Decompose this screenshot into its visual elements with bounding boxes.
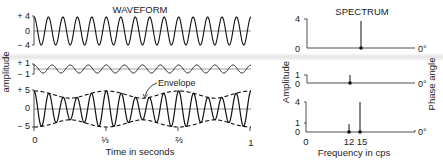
envelope-label: Envelope	[158, 78, 196, 88]
envelope-lower	[34, 120, 251, 127]
s3-y-axis	[304, 102, 306, 132]
freq-tick-0: 0	[303, 136, 308, 147]
s1-phase-dot	[359, 46, 363, 50]
waveform-panel-15cps: + 4 0 − 4	[17, 11, 251, 50]
envelope-upper	[34, 91, 251, 98]
w2-tick-minus1: − 1	[17, 69, 30, 79]
waveform-y-axis-title: amplitude	[0, 51, 11, 92]
s1-y-axis	[304, 19, 307, 48]
s3-tick-0: 0	[295, 127, 300, 137]
s2-tick-0: 0	[295, 79, 300, 89]
w2-tick-plus1: + 1	[17, 58, 30, 68]
waveform-panel-sum: + 5 0 − 5 Envelope	[17, 78, 251, 131]
spectrum-panel-2: 1 0 0°	[295, 70, 427, 89]
freq-tick-12: 12	[344, 136, 355, 147]
s3-phase-dot-15	[358, 130, 362, 134]
envelope-arrow	[145, 83, 157, 96]
s3-tick-4: 4	[295, 97, 300, 107]
spectrum-amplitude-title: Amplitude	[280, 61, 291, 103]
s1-phase-label: 0°	[418, 44, 427, 54]
frequency-axis-title: Frequency in cps	[318, 147, 391, 158]
time-label-1-3: ⅓	[101, 135, 109, 145]
waveform-panel-12cps: + 1 − 1	[17, 58, 251, 79]
w1-tick-0: 0	[25, 26, 30, 36]
w2-y-axis	[32, 64, 34, 74]
time-label-1: 1	[248, 137, 253, 148]
waveform-spectrum-figure: WAVEFORM + 4 0 − 4 + 1 − 1 + 5 0 − 5 Env…	[0, 0, 443, 162]
w1-y-axis	[32, 16, 34, 45]
s1-tick-4: 4	[295, 14, 300, 24]
s1-tick-0: 0	[295, 44, 300, 54]
freq-tick-15: 15	[357, 136, 368, 147]
w3-y-axis	[32, 90, 34, 127]
w3-tick-minus5: − 5	[17, 121, 30, 131]
s3-phase-label: 0°	[418, 127, 427, 137]
spectrum-panel-3: 4 1 0 0°	[295, 97, 427, 137]
time-label-0: 0	[32, 134, 37, 145]
spectrum-panel-1: 4 0 0°	[295, 14, 427, 54]
s3-phase-dot-12	[347, 130, 351, 134]
s2-phase-dot	[348, 81, 352, 85]
w1-tick-minus4: − 4	[17, 40, 30, 50]
spectrum-phase-title: Phase angle	[426, 58, 437, 111]
waveform-title: WAVEFORM	[113, 4, 168, 15]
s2-y-axis	[304, 75, 307, 83]
time-label-2-3: ⅔	[175, 135, 183, 145]
time-axis-title: Time in seconds	[106, 146, 175, 157]
w1-tick-plus4: + 4	[17, 11, 30, 21]
w3-tick-0: 0	[25, 103, 30, 113]
spectrum-title: SPECTRUM	[335, 6, 388, 17]
w3-tick-plus5: + 5	[17, 85, 30, 95]
